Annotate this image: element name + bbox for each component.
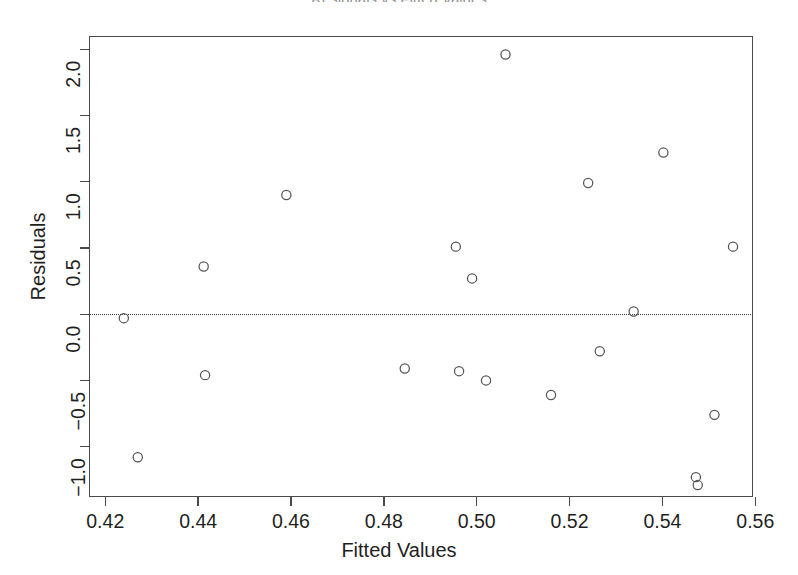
y-axis-tick xyxy=(80,49,89,50)
data-point xyxy=(595,347,604,356)
x-axis-tick xyxy=(569,497,570,506)
x-axis-tick xyxy=(662,497,663,506)
y-axis-tick xyxy=(80,446,89,447)
data-point xyxy=(282,190,291,199)
plot-area xyxy=(89,36,753,497)
x-axis-label: Fitted Values xyxy=(0,539,798,562)
y-axis-tick-label: 0.5 xyxy=(62,259,85,286)
data-point xyxy=(546,390,555,399)
data-point xyxy=(659,148,668,157)
data-points-group xyxy=(89,36,753,497)
y-axis-tick-label: 2.0 xyxy=(62,61,85,88)
data-point xyxy=(133,453,142,462)
data-point xyxy=(119,314,128,323)
x-axis-tick xyxy=(105,497,106,506)
residual-plot: Residuals vs Fitted Values 0.420.440.460… xyxy=(0,0,798,575)
x-axis-tick xyxy=(290,497,291,506)
x-axis-tick-label: 0.44 xyxy=(179,510,217,533)
y-axis-tick-label: 0.0 xyxy=(62,326,85,353)
data-point xyxy=(501,50,510,59)
x-axis-tick xyxy=(197,497,198,506)
x-axis-tick-label: 0.46 xyxy=(272,510,310,533)
y-axis-tick xyxy=(80,314,89,315)
data-point xyxy=(451,242,460,251)
x-axis-tick xyxy=(383,497,384,506)
y-axis-tick xyxy=(80,115,89,116)
data-point xyxy=(400,364,409,373)
data-point xyxy=(629,307,638,316)
y-axis-tick xyxy=(80,181,89,182)
data-point xyxy=(481,376,490,385)
x-axis-tick-label: 0.56 xyxy=(736,510,774,533)
y-axis-label: Residuals xyxy=(27,213,49,301)
x-axis-tick-label: 0.42 xyxy=(86,510,124,533)
y-axis-tick-label: 1.0 xyxy=(62,193,85,220)
y-axis-tick xyxy=(80,380,89,381)
data-point xyxy=(728,242,737,251)
x-axis-tick xyxy=(476,497,477,506)
data-point xyxy=(199,262,208,271)
y-axis-tick-label: −0.5 xyxy=(67,392,90,431)
data-point xyxy=(200,371,209,380)
data-point xyxy=(710,410,719,419)
x-axis-tick-label: 0.52 xyxy=(551,510,589,533)
x-axis-tick-label: 0.48 xyxy=(365,510,403,533)
data-point xyxy=(454,367,463,376)
x-axis-tick-label: 0.54 xyxy=(643,510,681,533)
data-point xyxy=(467,274,476,283)
x-axis-tick-label: 0.50 xyxy=(458,510,496,533)
y-axis-tick-label: −1.0 xyxy=(67,458,90,497)
x-axis-tick xyxy=(755,497,756,506)
y-axis-label-wrapper: Residuals xyxy=(27,27,50,487)
y-axis-tick-label: 1.5 xyxy=(62,127,85,154)
chart-title: Residuals vs Fitted Values xyxy=(0,0,798,2)
data-point xyxy=(584,178,593,187)
y-axis-tick xyxy=(80,247,89,248)
